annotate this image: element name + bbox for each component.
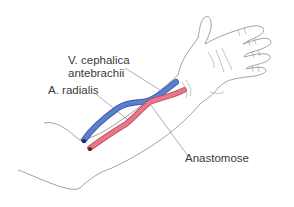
diagram-illustration: [0, 0, 294, 207]
anastomose-label: Anastomose: [185, 152, 249, 165]
hand-details: [182, 28, 260, 98]
vein-label: V. cephalica antebrachii: [68, 54, 124, 80]
arm-anastomosis-diagram: V. cephalica antebrachii A. radialis Ana…: [0, 0, 294, 207]
anastomose-leader-line: [150, 104, 188, 156]
vein-label-line2: antebrachii: [68, 67, 124, 80]
vein-label-line1: V. cephalica: [68, 54, 124, 67]
artery-label: A. radialis: [48, 84, 99, 97]
vein-leader-line: [125, 68, 160, 90]
